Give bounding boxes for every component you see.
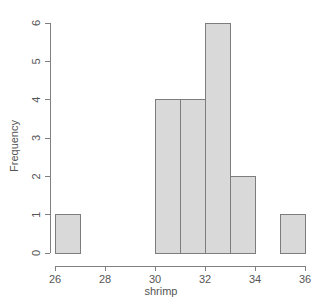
histogram-bar xyxy=(180,100,205,253)
x-tick-label: 26 xyxy=(49,273,61,285)
histogram-plot: 262830323436 0123456 shrimp Frequency xyxy=(0,0,323,302)
histogram-bar xyxy=(155,100,180,253)
y-axis: 0123456 xyxy=(30,20,50,256)
x-tick-label: 28 xyxy=(99,273,111,285)
histogram-canvas: 262830323436 0123456 shrimp Frequency xyxy=(0,0,323,302)
y-tick-label: 4 xyxy=(30,97,42,103)
x-tick-label: 36 xyxy=(299,273,311,285)
histogram-bar xyxy=(280,215,305,253)
x-axis-title: shrimp xyxy=(144,285,177,297)
y-tick-label: 0 xyxy=(30,250,42,256)
y-tick-label: 6 xyxy=(30,20,42,26)
y-tick-label: 2 xyxy=(30,173,42,179)
y-axis-title: Frequency xyxy=(8,120,20,172)
bars-group xyxy=(55,23,305,253)
x-axis-ticks: 262830323436 xyxy=(49,266,311,285)
histogram-bar xyxy=(230,176,255,253)
histogram-bar xyxy=(55,215,80,253)
histogram-bar xyxy=(205,23,230,253)
y-tick-label: 3 xyxy=(30,135,42,141)
y-tick-label: 1 xyxy=(30,212,42,218)
x-tick-label: 30 xyxy=(149,273,161,285)
x-tick-label: 32 xyxy=(199,273,211,285)
x-tick-label: 34 xyxy=(249,273,261,285)
x-axis: 262830323436 xyxy=(49,266,311,285)
y-axis-ticks: 0123456 xyxy=(30,20,50,256)
y-tick-label: 5 xyxy=(30,58,42,64)
